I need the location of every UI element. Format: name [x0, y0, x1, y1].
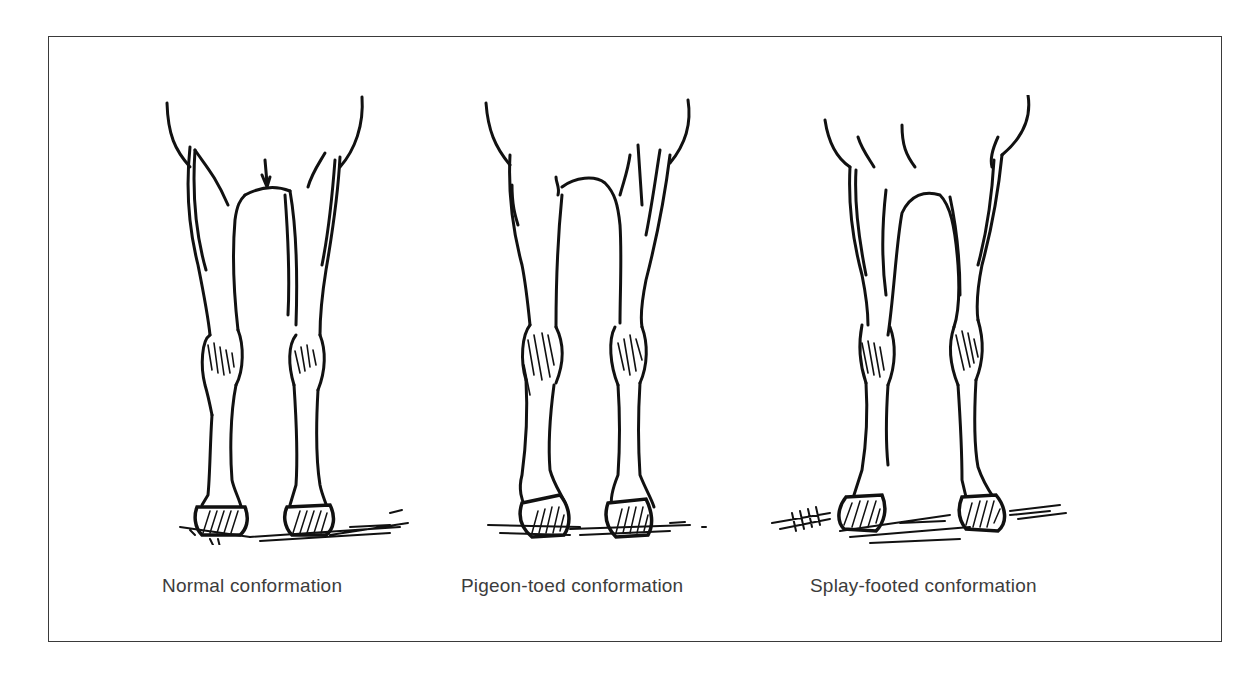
- normal-legs-illustration: [150, 95, 420, 545]
- caption-pigeon-toed: Pigeon-toed conformation: [461, 575, 683, 597]
- caption-splay-footed: Splay-footed conformation: [810, 575, 1037, 597]
- splay-footed-legs-illustration: [770, 95, 1070, 555]
- pigeon-toed-legs-illustration: [470, 95, 720, 545]
- caption-normal: Normal conformation: [162, 575, 342, 597]
